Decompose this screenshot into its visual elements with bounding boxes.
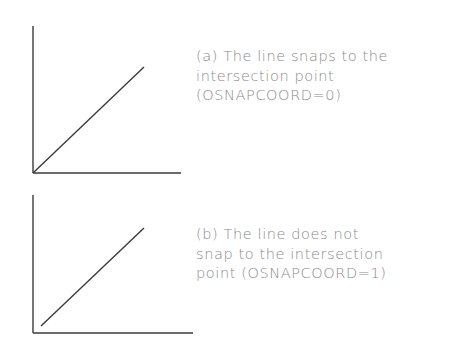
figure-b (33, 195, 193, 333)
figure-b-caption: (b) The line does not snap to the inters… (196, 225, 387, 284)
figure-b-non-snapping-line (41, 228, 144, 326)
caption-line: intersection point (196, 67, 388, 87)
caption-line: snap to the intersection (196, 245, 387, 265)
caption-line: (a) The line snaps to the (196, 47, 388, 67)
caption-line: point (OSNAPCOORD=1) (196, 264, 387, 284)
figure-a-snapping-line (33, 67, 144, 173)
caption-line: (b) The line does not (196, 225, 387, 245)
caption-line: (OSNAPCOORD=0) (196, 86, 388, 106)
figure-a (33, 26, 181, 173)
figure-a-caption: (a) The line snaps to the intersection p… (196, 47, 388, 106)
